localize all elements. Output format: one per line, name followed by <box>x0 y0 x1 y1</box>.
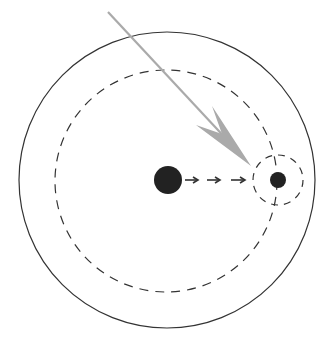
incoming-arrow <box>108 12 251 166</box>
central-body <box>154 166 182 194</box>
orbiting-body <box>270 172 286 188</box>
orbit-diagram <box>0 0 335 352</box>
